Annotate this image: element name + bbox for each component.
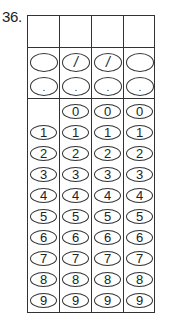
digit-bubble-4-col2[interactable]: 4: [62, 188, 89, 203]
digit-bubble-1-col3[interactable]: 1: [94, 125, 121, 140]
digit-label: 7: [136, 252, 143, 265]
digit-label: 5: [104, 210, 111, 223]
digit-label: 7: [40, 252, 47, 265]
digit-label: 4: [104, 189, 111, 202]
digit-bubble-2-col1[interactable]: 2: [30, 146, 57, 161]
dot-glyph: .: [75, 81, 78, 94]
digit-label: 9: [136, 294, 143, 307]
digit-bubble-2-col4[interactable]: 2: [126, 146, 153, 161]
digit-bubble-8-col2[interactable]: 8: [62, 272, 89, 287]
digit-bubble-6-col4[interactable]: 6: [126, 230, 153, 245]
digit-label: 2: [72, 147, 79, 160]
decimal-bubble-col4[interactable]: .: [126, 77, 154, 96]
section-divider: [28, 98, 154, 99]
digit-label: 2: [104, 147, 111, 160]
column-divider: [59, 16, 60, 312]
digit-label: 5: [136, 210, 143, 223]
digit-label: 2: [40, 147, 47, 160]
column-divider: [123, 16, 124, 312]
digit-bubble-8-col1[interactable]: 8: [30, 272, 57, 287]
digit-label: 7: [72, 252, 79, 265]
fraction-bubble-col1[interactable]: [30, 53, 58, 72]
answer-box-3[interactable]: [92, 16, 124, 48]
digit-label: 4: [40, 189, 47, 202]
dot-glyph: .: [139, 81, 142, 94]
digit-label: 3: [136, 168, 143, 181]
fraction-bubble-col3[interactable]: /: [94, 53, 122, 72]
digit-label: 6: [40, 231, 47, 244]
digit-bubble-5-col2[interactable]: 5: [62, 209, 89, 224]
digit-label: 0: [136, 105, 143, 118]
digit-label: 5: [72, 210, 79, 223]
slash-glyph: /: [74, 56, 78, 69]
digit-bubble-8-col3[interactable]: 8: [94, 272, 121, 287]
digit-bubble-6-col3[interactable]: 6: [94, 230, 121, 245]
digit-label: 3: [72, 168, 79, 181]
digit-label: 2: [136, 147, 143, 160]
digit-label: 4: [136, 189, 143, 202]
digit-label: 9: [104, 294, 111, 307]
slash-glyph: /: [106, 56, 110, 69]
decimal-bubble-col3[interactable]: .: [94, 77, 122, 96]
digit-bubble-7-col4[interactable]: 7: [126, 251, 153, 266]
digit-label: 6: [104, 231, 111, 244]
digit-bubble-5-col1[interactable]: 5: [30, 209, 57, 224]
answer-box-2[interactable]: [60, 16, 92, 48]
digit-bubble-9-col4[interactable]: 9: [126, 293, 153, 308]
digit-label: 5: [40, 210, 47, 223]
digit-bubble-2-col3[interactable]: 2: [94, 146, 121, 161]
digit-label: 8: [72, 273, 79, 286]
digit-bubble-1-col1[interactable]: 1: [30, 125, 57, 140]
digit-bubble-7-col2[interactable]: 7: [62, 251, 89, 266]
answer-box-1[interactable]: [28, 16, 60, 48]
digit-bubble-9-col1[interactable]: 9: [30, 293, 57, 308]
grid-in-answer-sheet: / / . . . . 0001111222233334444555566667…: [27, 15, 155, 313]
decimal-bubble-col1[interactable]: .: [30, 77, 58, 96]
digit-bubble-2-col2[interactable]: 2: [62, 146, 89, 161]
digit-bubble-7-col1[interactable]: 7: [30, 251, 57, 266]
digit-label: 7: [104, 252, 111, 265]
digit-bubble-0-col3[interactable]: 0: [94, 104, 121, 119]
digit-label: 6: [72, 231, 79, 244]
digit-bubble-7-col3[interactable]: 7: [94, 251, 121, 266]
digit-label: 1: [40, 126, 47, 139]
fraction-bubble-col4[interactable]: [126, 53, 154, 72]
dot-glyph: .: [43, 81, 46, 94]
column-divider: [91, 16, 92, 312]
digit-bubble-3-col4[interactable]: 3: [126, 167, 153, 182]
digit-bubble-1-col2[interactable]: 1: [62, 125, 89, 140]
digit-bubble-8-col4[interactable]: 8: [126, 272, 153, 287]
digit-label: 8: [104, 273, 111, 286]
digit-bubble-5-col4[interactable]: 5: [126, 209, 153, 224]
question-number: 36.: [2, 9, 22, 25]
digit-bubble-3-col3[interactable]: 3: [94, 167, 121, 182]
digit-label: 8: [136, 273, 143, 286]
digit-bubble-4-col3[interactable]: 4: [94, 188, 121, 203]
digit-label: 6: [136, 231, 143, 244]
decimal-bubble-col2[interactable]: .: [62, 77, 90, 96]
digit-bubble-3-col1[interactable]: 3: [30, 167, 57, 182]
digit-label: 8: [40, 273, 47, 286]
digit-label: 0: [104, 105, 111, 118]
digit-bubble-9-col2[interactable]: 9: [62, 293, 89, 308]
digit-label: 0: [72, 105, 79, 118]
digit-label: 1: [72, 126, 79, 139]
digit-bubble-0-col2[interactable]: 0: [62, 104, 89, 119]
digit-label: 1: [136, 126, 143, 139]
digit-bubble-0-col4[interactable]: 0: [126, 104, 153, 119]
digit-label: 1: [104, 126, 111, 139]
digit-label: 9: [72, 294, 79, 307]
digit-bubble-3-col2[interactable]: 3: [62, 167, 89, 182]
fraction-bubble-col2[interactable]: /: [62, 53, 90, 72]
dot-glyph: .: [107, 81, 110, 94]
answer-box-4[interactable]: [124, 16, 156, 48]
digit-label: 3: [104, 168, 111, 181]
digit-bubble-5-col3[interactable]: 5: [94, 209, 121, 224]
digit-bubble-1-col4[interactable]: 1: [126, 125, 153, 140]
digit-label: 9: [40, 294, 47, 307]
digit-bubble-6-col1[interactable]: 6: [30, 230, 57, 245]
digit-bubble-9-col3[interactable]: 9: [94, 293, 121, 308]
digit-bubble-4-col1[interactable]: 4: [30, 188, 57, 203]
digit-bubble-6-col2[interactable]: 6: [62, 230, 89, 245]
digit-bubble-4-col4[interactable]: 4: [126, 188, 153, 203]
